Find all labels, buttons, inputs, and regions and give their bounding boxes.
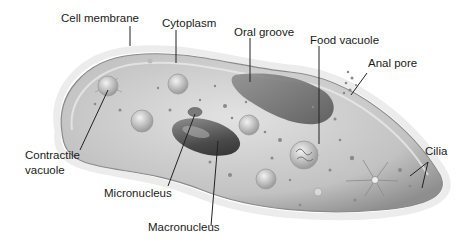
label-contractile-vacuole-2: vacuole bbox=[25, 164, 65, 177]
label-micronucleus: Micronucleus bbox=[104, 187, 172, 200]
label-food-vacuole: Food vacuole bbox=[310, 34, 379, 47]
paramecium-diagram: Cell membrane Cytoplasm Oral groove Food… bbox=[0, 0, 474, 247]
label-oral-groove: Oral groove bbox=[234, 26, 294, 39]
label-cilia: Cilia bbox=[425, 145, 447, 158]
label-contractile-vacuole-1: Contractile bbox=[25, 149, 80, 162]
food-vacuole-main bbox=[290, 141, 318, 169]
label-anal-pore: Anal pore bbox=[368, 57, 417, 70]
label-cell-membrane: Cell membrane bbox=[61, 12, 139, 25]
label-cytoplasm: Cytoplasm bbox=[162, 17, 216, 30]
label-macronucleus: Macronucleus bbox=[148, 221, 220, 234]
